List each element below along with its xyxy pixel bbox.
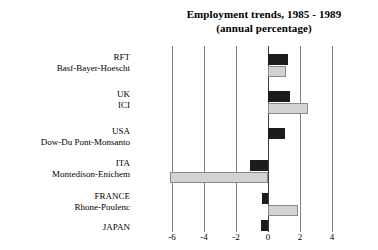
bar-rft-country (268, 54, 288, 65)
category-label-line1: JAPAN (103, 222, 130, 233)
category-axis-labels: RFT Basf-Bayer-Hoescht UK ICI USA Dow-Du… (0, 46, 136, 232)
x-tick-label: 2 (298, 232, 303, 243)
category-label-usa: USA Dow-Du Pont-Monsanto (41, 126, 130, 148)
category-label-line2: ICI (117, 100, 130, 111)
category-label-line1: FRANCE (75, 191, 131, 202)
bar-uk-company (268, 103, 308, 114)
chart-title-block: Employment trends, 1985 - 1989 (annual p… (150, 7, 378, 35)
category-label-line1: ITA (52, 158, 130, 169)
bar-france-company (268, 205, 298, 216)
category-label-line1: USA (41, 126, 130, 137)
category-label-uk: UK ICI (117, 89, 130, 111)
gridline (300, 46, 301, 232)
gridline (204, 46, 205, 232)
category-label-line2: Basf-Bayer-Hoescht (57, 63, 130, 74)
bar-ita-country (250, 160, 268, 171)
bar-chart: Employment trends, 1985 - 1989 (annual p… (0, 0, 378, 250)
category-label-line1: UK (117, 89, 130, 100)
x-tick-label: -2 (232, 232, 240, 243)
gridline (172, 46, 173, 232)
gridline (236, 46, 237, 232)
bar-ita-company (170, 172, 268, 183)
bar-usa-country (268, 128, 285, 139)
x-tick-label: 0 (266, 232, 271, 243)
bar-japan-country (261, 220, 268, 231)
x-tick-label: 4 (330, 232, 335, 243)
category-label-line1: RFT (57, 52, 130, 63)
category-label-france: FRANCE Rhone-Poulenc (75, 191, 131, 213)
x-tick-label: -6 (168, 232, 176, 243)
bar-rft-company (268, 66, 286, 77)
x-axis-tick-labels: -6-4-2024 (136, 232, 378, 248)
chart-title: Employment trends, 1985 - 1989 (150, 7, 378, 21)
bar-france-country (262, 193, 268, 204)
chart-subtitle: (annual percentage) (150, 21, 378, 35)
plot-area (136, 46, 378, 232)
category-label-line2: Dow-Du Pont-Monsanto (41, 137, 130, 148)
category-label-japan: JAPAN (103, 222, 130, 233)
category-label-rft: RFT Basf-Bayer-Hoescht (57, 52, 130, 74)
category-label-line2: Montedison-Enichem (52, 169, 130, 180)
bar-uk-country (268, 91, 290, 102)
x-tick-label: -4 (200, 232, 208, 243)
category-label-ita: ITA Montedison-Enichem (52, 158, 130, 180)
gridline (332, 46, 333, 232)
category-label-line2: Rhone-Poulenc (75, 202, 131, 213)
